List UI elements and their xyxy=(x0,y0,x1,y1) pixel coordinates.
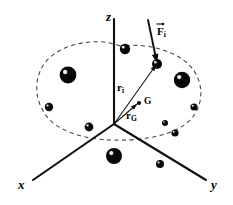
particle-sphere xyxy=(162,120,168,126)
vector-subscript-r-g: G xyxy=(131,114,137,123)
center-of-mass-marker xyxy=(137,101,141,105)
axis-label-y: y xyxy=(211,178,217,191)
particle-highlight xyxy=(158,162,160,164)
vector-base-r-g: r xyxy=(126,110,131,121)
vector-label-r-g: rG xyxy=(126,110,137,123)
particle-highlight xyxy=(163,121,165,123)
particle-highlight xyxy=(173,131,175,133)
particle-sphere xyxy=(106,148,122,164)
particle-sphere xyxy=(152,59,162,69)
point-marker-G xyxy=(137,101,141,105)
vector-label-r-i: ri xyxy=(117,82,124,95)
vector-base-letter-f: F xyxy=(157,25,164,37)
particle-sphere xyxy=(60,67,77,84)
particle-sphere xyxy=(120,44,130,54)
particle-sphere xyxy=(171,129,178,136)
particle-highlight xyxy=(109,151,113,155)
vector-base-r-i: r xyxy=(117,82,122,93)
particle-highlight xyxy=(63,70,67,74)
particle-sphere xyxy=(85,123,94,132)
particle-highlight xyxy=(46,104,48,106)
figure-canvas xyxy=(0,0,233,205)
axis-label-z: z xyxy=(106,10,111,23)
axis-line-x xyxy=(33,124,114,180)
vector-subscript-f-i: i xyxy=(164,30,166,39)
particle-sphere xyxy=(156,160,164,168)
particle-highlight xyxy=(86,124,88,126)
particle-sphere xyxy=(174,72,190,88)
particle-highlight xyxy=(177,75,181,79)
axis-line-y xyxy=(114,124,206,180)
axis-label-x: x xyxy=(18,178,25,191)
vector-label-f-i: Fi xyxy=(157,26,166,39)
physics-figure: z x y ri rG Fi G xyxy=(0,0,233,205)
vector-overbar-arrow-icon xyxy=(156,21,165,26)
vector-subscript-r-i: i xyxy=(122,86,124,95)
particle-highlight xyxy=(154,61,157,64)
vector-arrows xyxy=(114,20,158,124)
vector-base-f-i: F xyxy=(157,26,164,37)
particle-highlight xyxy=(192,105,194,107)
point-label-g: G xyxy=(144,97,151,107)
particle-spheres xyxy=(45,44,198,168)
particle-highlight xyxy=(122,46,125,49)
particle-sphere xyxy=(45,103,53,111)
particle-sphere xyxy=(190,103,197,110)
